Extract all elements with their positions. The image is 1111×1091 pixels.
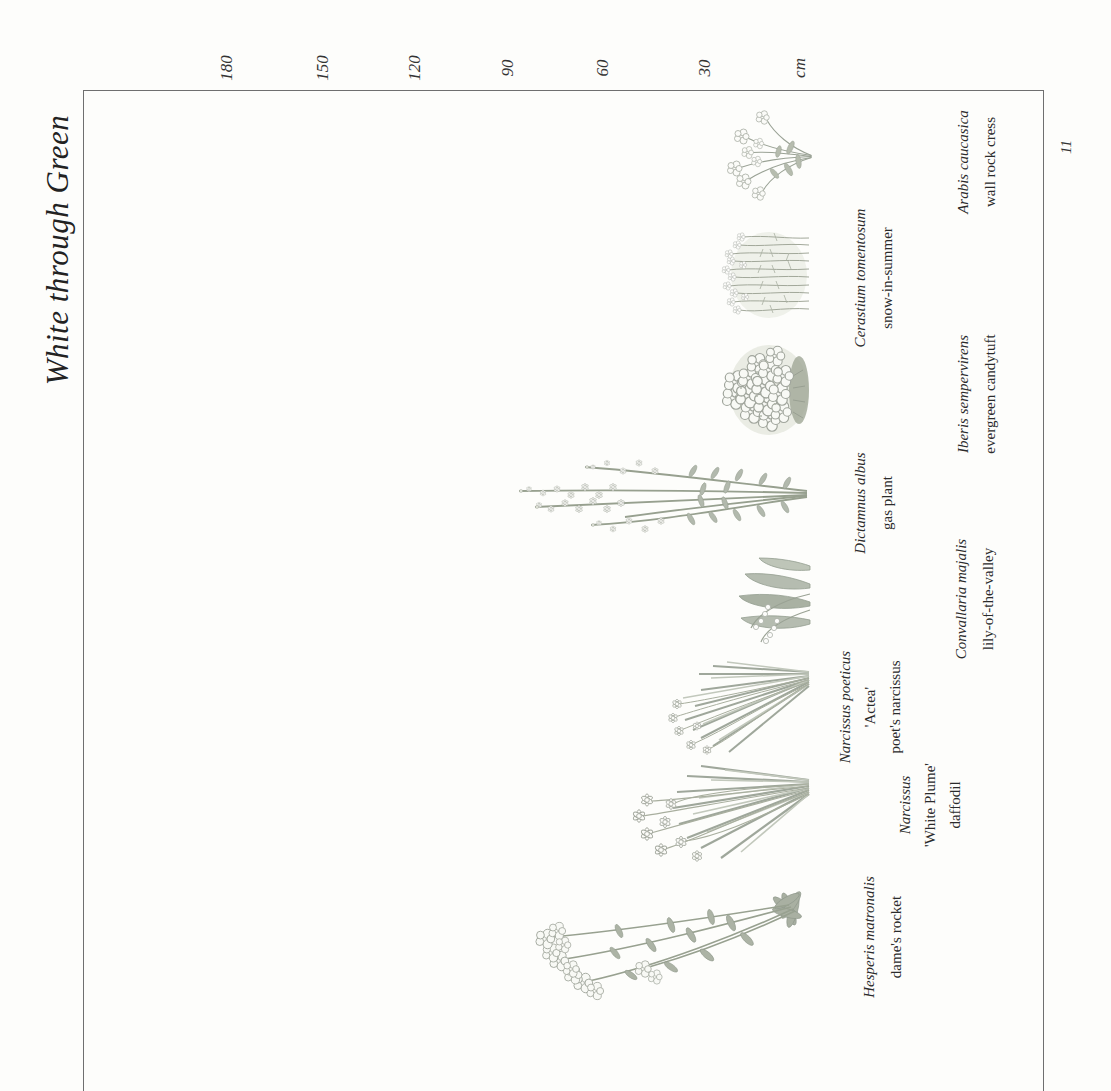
plant-label-cerastium-tomentosum: Cerastium tomentosum snow-in-summer — [847, 209, 901, 348]
plant-common-name: dame's rocket — [883, 876, 910, 998]
plant-illustration-dictamnus-albus — [495, 441, 813, 547]
plant-label-iberis-sempervirens: Iberis sempervirens evergreen candytuft — [950, 334, 1004, 453]
plant-illustration-hesperis-matronalis — [531, 875, 813, 1005]
plant-illustration-cerastium-tomentosum — [713, 223, 813, 327]
plant-botanical-name: Hesperis matronalis — [856, 876, 883, 998]
plant-label-arabis-caucasica: Arabis caucasica wall rock cress — [950, 110, 1004, 214]
scale-tick-180: 180 — [217, 55, 237, 81]
plant-botanical-name: Arabis caucasica — [950, 110, 977, 214]
scale-tick-90: 90 — [498, 60, 518, 77]
plant-common-name: evergreen candytuft — [977, 334, 1004, 453]
plant-label-convallaria-majalis: Convallaria majalis lily-of-the-valley — [948, 539, 1002, 659]
plant-label-narcissus-white-plume: Narcissus 'White Plume' daffodil — [893, 763, 968, 847]
plant-illustration-arabis-caucasica — [719, 106, 814, 210]
plant-common-name: wall rock cress — [977, 110, 1004, 214]
plant-botanical-name: Convallaria majalis — [948, 539, 975, 659]
scale-tick-120: 120 — [405, 55, 425, 81]
plant-illustration-convallaria-majalis — [731, 546, 813, 654]
plant-common-name: daffodil — [943, 763, 968, 847]
plant-botanical-name: Narcissus — [893, 763, 918, 847]
plant-illustration-narcissus-poeticus — [655, 652, 813, 764]
plant-common-name: gas plant — [874, 452, 901, 553]
plant-botanical-name: Cerastium tomentosum — [847, 209, 874, 348]
scale-tick-60: 60 — [593, 60, 613, 77]
page-number: 11 — [1058, 140, 1075, 154]
plant-cultivar: 'White Plume' — [918, 763, 943, 847]
plant-botanical-name: Iberis sempervirens — [950, 334, 977, 453]
page-title: White through Green — [40, 115, 76, 386]
plant-illustration-iberis-sempervirens — [711, 338, 813, 442]
plant-cultivar: 'Actea' — [858, 651, 883, 763]
plant-label-dictamnus-albus: Dictamnus albus gas plant — [847, 452, 901, 553]
plant-botanical-name: Narcissus poeticus — [833, 651, 858, 763]
plant-common-name: snow-in-summer — [874, 209, 901, 348]
plant-common-name: poet's narcissus — [883, 651, 908, 763]
plant-label-narcissus-poeticus: Narcissus poeticus 'Actea' poet's narcis… — [833, 651, 908, 763]
plant-botanical-name: Dictamnus albus — [847, 452, 874, 553]
scale-tick-150: 150 — [313, 55, 333, 81]
scale-unit-cm-label: cm — [790, 58, 810, 78]
scale-tick-30: 30 — [695, 60, 715, 77]
plant-label-hesperis-matronalis: Hesperis matronalis dame's rocket — [856, 876, 910, 998]
plant-illustration-narcissus-white-plume — [621, 756, 813, 868]
plant-common-name: lily-of-the-valley — [975, 539, 1002, 659]
